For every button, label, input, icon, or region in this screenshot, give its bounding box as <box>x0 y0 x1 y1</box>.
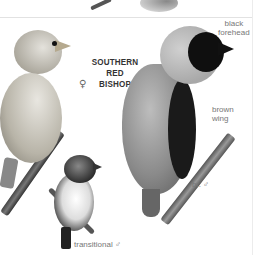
black-forehead-label: black forehead <box>218 19 250 37</box>
transitional-male-illustration <box>44 155 114 250</box>
breeding-male-illustration <box>118 24 238 224</box>
label-line: forehead <box>218 28 250 37</box>
label-line: brown <box>212 105 234 114</box>
transitional-male-label: transitional ♂ <box>74 240 121 249</box>
brown-wing-label: brown wing <box>212 105 234 123</box>
female-symbol: ♀ <box>79 78 86 89</box>
breeding-male-label: br. ♂ <box>192 180 209 189</box>
plate-divider <box>0 17 252 18</box>
page-edge <box>252 0 253 255</box>
eye-icon <box>52 41 57 46</box>
label-line: wing <box>212 114 234 123</box>
previous-plate-fragment <box>85 0 185 16</box>
label-line: black <box>218 19 250 28</box>
